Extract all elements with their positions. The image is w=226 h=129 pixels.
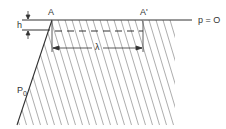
diagram-canvas [0,0,226,129]
hatched-region [0,0,213,129]
surface-pressure-label: p = O [198,16,220,25]
point-a-label: A [48,8,54,17]
initial-pressure-label: P0 [17,86,27,97]
height-label: h [17,21,22,30]
h-dimension-arrows [26,11,30,39]
wavelength-label: λ [95,43,100,52]
point-a-prime-label: A' [140,8,148,17]
initial-pressure-subscript: 0 [23,90,27,97]
sloped-boundary-line [17,20,52,125]
